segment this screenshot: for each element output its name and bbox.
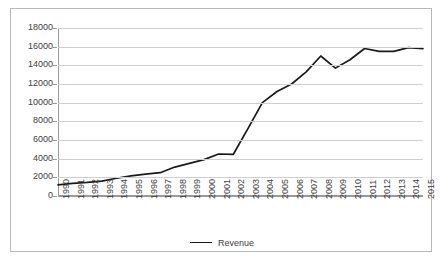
x-tick-label-2008: 2008: [325, 179, 334, 199]
x-tick-label-1999: 1999: [193, 179, 202, 199]
gridline-16000: [58, 47, 423, 48]
x-tick-label-1990: 1990: [62, 179, 71, 199]
x-tick-label-2005: 2005: [281, 179, 290, 199]
gridline-14000: [58, 65, 423, 66]
chart-frame: 1800016000140001200010000800060004000200…: [10, 8, 432, 252]
legend-line-icon: [190, 242, 212, 243]
x-axis: 1990199119921993199419951996199719981999…: [58, 197, 423, 237]
x-tick-label-2001: 2001: [223, 179, 232, 199]
x-tick-label-1992: 1992: [91, 179, 100, 199]
y-tick-mark-8000: [53, 121, 57, 122]
y-tick-mark-14000: [53, 65, 57, 66]
y-tick-mark-0: [53, 196, 57, 197]
y-tick-label-2000: 2000: [33, 172, 53, 181]
x-tick-label-1996: 1996: [150, 179, 159, 199]
x-tick-label-2000: 2000: [208, 179, 217, 199]
y-tick-label-8000: 8000: [33, 116, 53, 125]
x-tick-label-2009: 2009: [339, 179, 348, 199]
legend-item-revenue: Revenue: [190, 237, 254, 248]
y-tick-label-6000: 6000: [33, 135, 53, 144]
y-tick-mark-10000: [53, 103, 57, 104]
y-tick-label-10000: 10000: [28, 98, 53, 107]
y-tick-mark-2000: [53, 177, 57, 178]
y-tick-mark-4000: [53, 159, 57, 160]
x-tick-label-2003: 2003: [252, 179, 261, 199]
x-tick-label-2006: 2006: [296, 179, 305, 199]
revenue-line-series: [58, 28, 423, 196]
y-tick-label-12000: 12000: [28, 79, 53, 88]
x-tick-label-1994: 1994: [120, 179, 129, 199]
chart-legend: Revenue: [11, 237, 433, 248]
gridline-18000: [58, 28, 423, 29]
y-tick-mark-16000: [53, 47, 57, 48]
x-tick-label-2010: 2010: [354, 179, 363, 199]
x-tick-label-2002: 2002: [237, 179, 246, 199]
gridline-10000: [58, 103, 423, 104]
gridline-4000: [58, 159, 423, 160]
gridline-12000: [58, 84, 423, 85]
x-tick-label-2015: 2015: [427, 179, 436, 199]
x-tick-label-2013: 2013: [398, 179, 407, 199]
y-axis: 1800016000140001200010000800060004000200…: [11, 28, 53, 196]
x-tick-label-1995: 1995: [135, 179, 144, 199]
y-tick-label-16000: 16000: [28, 42, 53, 51]
x-tick-label-2011: 2011: [369, 180, 378, 199]
x-tick-label-1991: 1991: [77, 179, 86, 199]
y-tick-mark-12000: [53, 84, 57, 85]
x-tick-label-2014: 2014: [412, 179, 421, 199]
x-tick-label-2012: 2012: [383, 179, 392, 199]
x-tick-label-2004: 2004: [266, 179, 275, 199]
x-tick-label-1998: 1998: [179, 179, 188, 199]
x-tick-label-2007: 2007: [310, 179, 319, 199]
x-tick-label-1993: 1993: [106, 179, 115, 199]
plot-area: [58, 28, 423, 196]
y-tick-label-14000: 14000: [28, 60, 53, 69]
gridline-6000: [58, 140, 423, 141]
y-tick-mark-18000: [53, 28, 57, 29]
y-tick-mark-6000: [53, 140, 57, 141]
legend-label: Revenue: [218, 238, 254, 248]
y-tick-label-18000: 18000: [28, 23, 53, 32]
x-tick-label-1997: 1997: [164, 179, 173, 199]
y-tick-label-4000: 4000: [33, 154, 53, 163]
gridline-8000: [58, 121, 423, 122]
series-line-revenue: [58, 48, 423, 185]
